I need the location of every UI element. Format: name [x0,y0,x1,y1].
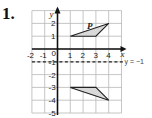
y-tick-label: 1 [51,32,56,41]
x-tick-label: 4 [106,51,111,60]
x-tick-label: 3 [93,51,98,60]
shape-label-p: P [87,21,93,31]
x-tick-label: -2 [27,51,35,60]
x-tick-label: 0 [52,49,57,58]
x-tick-label: 2 [81,51,86,60]
x-tick-label: 1 [68,51,73,60]
triangle-image [70,87,108,100]
x-tick-label: -1 [40,51,48,60]
x-axis-label: x [120,49,125,59]
y-tick-label: -5 [49,109,57,118]
y-axis-arrow-icon [55,7,61,14]
y-tick-label: -4 [49,96,57,105]
coordinate-grid: P y = −1xy -2-10123421-1-2-3-4-5 [0,0,152,118]
y-tick-label: -1 [49,58,57,67]
y-tick-label: 2 [51,19,56,28]
mirror-line-label: y = −1 [125,58,145,66]
y-tick-label: -2 [49,71,57,80]
y-axis-label: y [49,9,54,19]
triangles: P [70,21,108,101]
y-tick-label: -3 [49,83,57,92]
